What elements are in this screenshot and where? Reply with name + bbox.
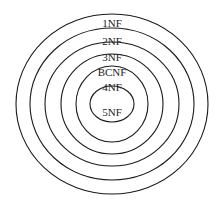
label-4nf: 4NF [102, 81, 122, 93]
label-2nf: 2NF [102, 35, 122, 47]
label-bcnf: BCNF [98, 66, 127, 78]
label-3nf: 3NF [102, 51, 122, 63]
normal-forms-diagram: 1NF2NF3NFBCNF4NF5NF [0, 0, 223, 208]
label-1nf: 1NF [102, 17, 122, 29]
label-5nf: 5NF [102, 106, 122, 118]
